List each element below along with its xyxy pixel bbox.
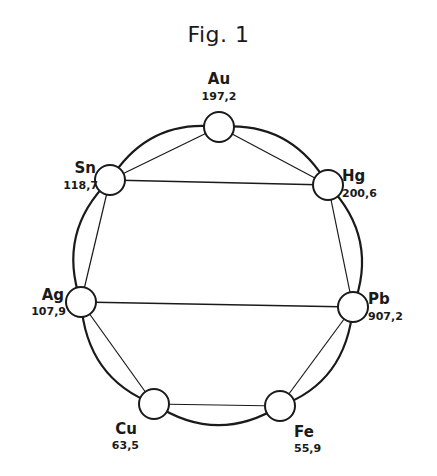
node-weight-fe: 55,9 — [294, 442, 321, 455]
node-symbol-hg: Hg — [342, 167, 365, 185]
ring-arc-hg-pb — [328, 185, 362, 307]
node-sn: Sn118,7 — [63, 159, 125, 195]
ring-arc-fe-cu — [154, 404, 280, 425]
cross-link-sn-hg — [110, 180, 328, 185]
node-au: Au197,2 — [202, 70, 237, 142]
node-pb: Pb907,2 — [338, 290, 403, 323]
ring-arc-ag-sn — [73, 180, 110, 302]
node-weight-sn: 118,7 — [63, 179, 98, 192]
node-circle-pb — [338, 292, 368, 322]
nodes-layer: Au197,2Hg200,6Pb907,2Fe55,9Cu63,5Ag107,9… — [31, 70, 403, 455]
ring-chord-ag-sn — [81, 180, 110, 302]
node-circle-sn — [95, 165, 125, 195]
node-symbol-pb: Pb — [368, 290, 390, 308]
node-circle-cu — [139, 389, 169, 419]
node-weight-cu: 63,5 — [112, 439, 139, 452]
node-symbol-ag: Ag — [42, 286, 64, 304]
ring-chord-sn-au — [110, 127, 219, 180]
element-ring-diagram: Au197,2Hg200,6Pb907,2Fe55,9Cu63,5Ag107,9… — [0, 0, 437, 476]
node-symbol-fe: Fe — [294, 423, 314, 441]
node-weight-au: 197,2 — [202, 90, 237, 103]
node-weight-hg: 200,6 — [342, 187, 377, 200]
node-circle-ag — [66, 287, 96, 317]
cross-link-ag-pb — [81, 302, 353, 307]
node-symbol-au: Au — [208, 70, 230, 88]
node-circle-au — [204, 112, 234, 142]
ring-chord-fe-cu — [154, 404, 280, 406]
node-symbol-sn: Sn — [75, 159, 96, 177]
node-symbol-cu: Cu — [115, 420, 137, 438]
ring-chord-pb-fe — [280, 307, 353, 406]
ring-chord-cu-ag — [81, 302, 154, 404]
ring-chord-au-hg — [219, 127, 328, 185]
ring-chord-hg-pb — [328, 185, 353, 307]
node-weight-pb: 907,2 — [368, 310, 403, 323]
node-weight-ag: 107,9 — [31, 305, 66, 318]
node-circle-fe — [265, 391, 295, 421]
node-hg: Hg200,6 — [313, 167, 377, 200]
node-ag: Ag107,9 — [31, 286, 96, 318]
node-cu: Cu63,5 — [112, 389, 169, 452]
node-circle-hg — [313, 170, 343, 200]
node-fe: Fe55,9 — [265, 391, 321, 455]
